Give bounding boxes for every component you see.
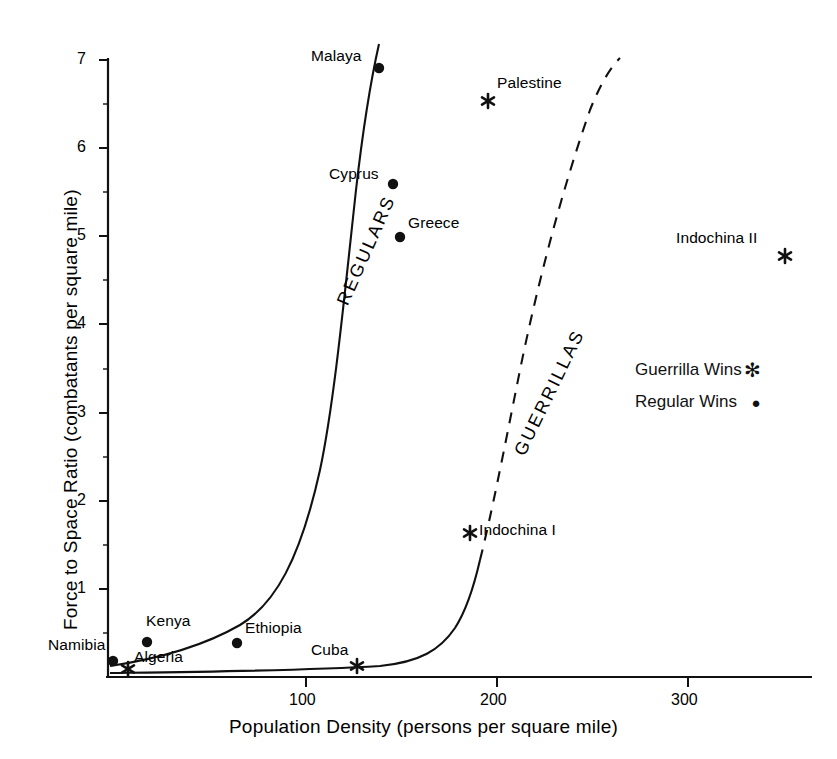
label-palestine: Palestine bbox=[497, 74, 562, 92]
point-cyprus bbox=[388, 179, 398, 189]
x-tick-label-100: 100 bbox=[289, 691, 316, 709]
label-ethiopia: Ethiopia bbox=[245, 619, 302, 637]
legend-item-guerrilla-wins: Guerrilla Wins ✻ bbox=[635, 360, 764, 380]
guerrilla-wins-markers bbox=[122, 94, 791, 676]
label-indochina-2: Indochina II bbox=[676, 229, 757, 247]
dot-marker-icon: ● bbox=[745, 395, 767, 410]
force-to-space-ratio-chart: 7 6 5 4 3 2 1 100 200 300 Population Den… bbox=[0, 0, 837, 759]
x-axis-ticks bbox=[306, 677, 688, 687]
point-ethiopia bbox=[232, 638, 242, 648]
y-tick-label-6: 6 bbox=[77, 138, 86, 156]
x-tick-label-200: 200 bbox=[480, 691, 507, 709]
point-palestine bbox=[482, 94, 494, 108]
label-cuba: Cuba bbox=[311, 641, 348, 659]
label-algeria: Algeria bbox=[134, 648, 183, 666]
x-axis-title: Population Density (persons per square m… bbox=[229, 716, 618, 738]
x-tick-label-300: 300 bbox=[671, 691, 698, 709]
legend-label-guerrilla-wins: Guerrilla Wins bbox=[635, 360, 742, 380]
label-kenya: Kenya bbox=[146, 612, 190, 630]
label-greece: Greece bbox=[408, 214, 459, 232]
label-indochina-1: Indochina I bbox=[479, 521, 556, 539]
point-namibia bbox=[108, 656, 118, 666]
regulars-curve bbox=[110, 44, 379, 666]
point-indochina-2 bbox=[779, 249, 791, 263]
legend-label-regular-wins: Regular Wins bbox=[635, 392, 737, 412]
star-marker-icon: ✻ bbox=[742, 360, 764, 380]
y-axis-title: Force to Space Ratio (combatants per squ… bbox=[60, 189, 82, 630]
label-namibia: Namibia bbox=[48, 636, 106, 654]
legend-item-regular-wins: Regular Wins ● bbox=[635, 392, 767, 412]
label-cyprus: Cyprus bbox=[329, 165, 379, 183]
label-malaya: Malaya bbox=[311, 47, 362, 65]
y-tick-label-7: 7 bbox=[77, 50, 86, 68]
point-kenya bbox=[142, 637, 152, 647]
point-indochina-1 bbox=[464, 526, 476, 540]
point-cuba bbox=[351, 659, 363, 673]
guerrillas-curve-dashed bbox=[480, 58, 620, 560]
point-greece bbox=[395, 232, 405, 242]
y-axis-ticks bbox=[99, 60, 108, 589]
point-malaya bbox=[374, 63, 384, 73]
